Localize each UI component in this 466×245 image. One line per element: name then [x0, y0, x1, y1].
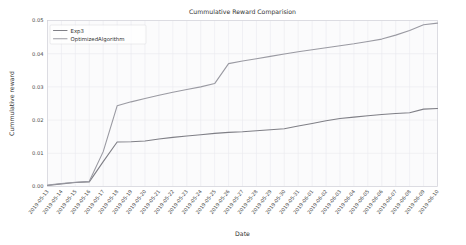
cumulative-reward-line-chart: 0.000.010.020.030.040.05 2019-05-132019-…: [0, 0, 466, 245]
y-tick-label-3: 0.03: [32, 84, 44, 90]
chart-title: Cummulative Reward Comparision: [189, 8, 296, 16]
legend-label-0: Exp3: [71, 28, 84, 35]
chart-figure: 0.000.010.020.030.040.05 2019-05-132019-…: [0, 0, 466, 245]
y-tick-label-4: 0.04: [32, 51, 44, 57]
y-tick-label-2: 0.02: [32, 117, 44, 123]
y-tick-label-0: 0.00: [32, 183, 44, 189]
legend-label-1: OptimizedAlgorithm: [71, 36, 125, 43]
y-axis-label: Cummulative reward: [8, 71, 15, 136]
y-tick-label-1: 0.01: [32, 150, 44, 156]
chart-legend[interactable]: Exp3OptimizedAlgorithm: [50, 25, 146, 44]
x-axis-label: Date: [235, 230, 250, 237]
y-tick-label-5: 0.05: [32, 17, 44, 23]
